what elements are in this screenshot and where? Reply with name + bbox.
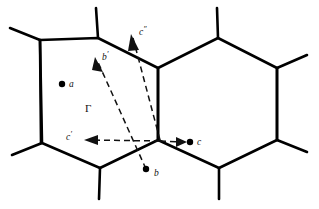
left-hexagon [40,38,158,168]
site-b-label: b [154,168,159,178]
vector-c-double-prime-label-prime: ″ [143,25,147,34]
stub-left-lower [12,143,42,155]
vector-c-prime-label-prime: ′ [70,130,72,139]
lattice-figure: a b c b′ c″ c′ Γ [0,0,319,209]
gamma-label: Γ [85,102,91,114]
right-hexagon [158,38,277,168]
site-c-dot [187,139,193,145]
vector-group [84,34,187,169]
stub-left-vertical [40,40,41,143]
stub-top-left [96,8,98,38]
stub-bottom-left [99,168,100,199]
vector-c-double-prime-label: c″ [139,25,147,37]
vector-c-double-prime-arrowhead [128,34,139,51]
site-a-label: a [69,79,74,89]
vector-b-prime-label-prime: ′ [107,50,109,59]
site-c-label: c [197,137,202,147]
vector-c-prime-arrowhead [84,135,98,145]
vector-c-prime-label: c′ [66,130,72,142]
vector-c-double-prime-line [133,38,160,140]
vector-c-prime-line [90,140,160,141]
vector-b-prime-line [97,60,146,169]
stub-left-upper [10,28,40,40]
lattice-canvas: a b c b′ c″ c′ Γ [0,0,319,209]
stub-right-lower [277,140,307,152]
site-a-dot [59,81,65,87]
stub-top-right [217,8,218,38]
vector-c-arrowhead [176,137,187,147]
site-b-dot [143,166,149,172]
hexagon-group [40,38,277,168]
stub-right-upper [277,55,307,68]
vector-b-prime-label: b′ [102,50,109,62]
